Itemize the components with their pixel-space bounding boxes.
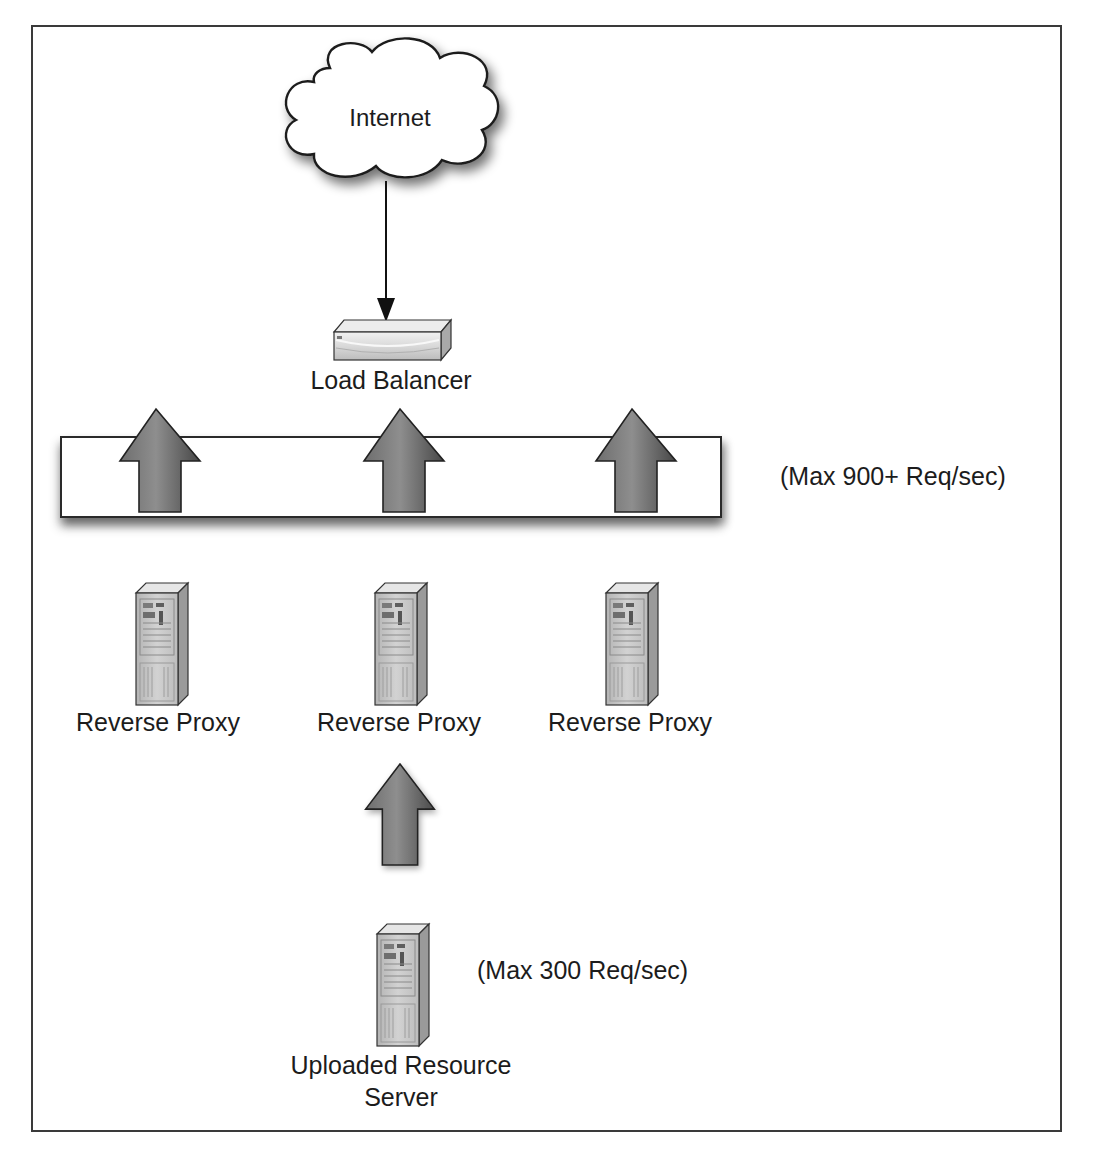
reverse-proxy-2-label: Reverse Proxy (317, 708, 481, 736)
proxy-1-to-lb-arrow-icon (120, 409, 200, 512)
proxy-2-to-lb-arrow-icon (364, 409, 444, 512)
resource-server-capacity-label: (Max 300 Req/sec) (477, 956, 688, 984)
resource-server-label-line2: Server (364, 1083, 438, 1111)
band-arrows-layer (0, 0, 1094, 1161)
reverse-proxy-1-label: Reverse Proxy (76, 708, 240, 736)
load-balancer-label: Load Balancer (310, 366, 471, 394)
proxy-3-to-lb-arrow-icon (596, 409, 676, 512)
internet-label: Internet (349, 104, 430, 132)
reverse-proxy-3-label: Reverse Proxy (548, 708, 712, 736)
resource-server-label-line1: Uploaded Resource (291, 1051, 512, 1079)
proxy-tier-capacity-label: (Max 900+ Req/sec) (780, 462, 1006, 490)
